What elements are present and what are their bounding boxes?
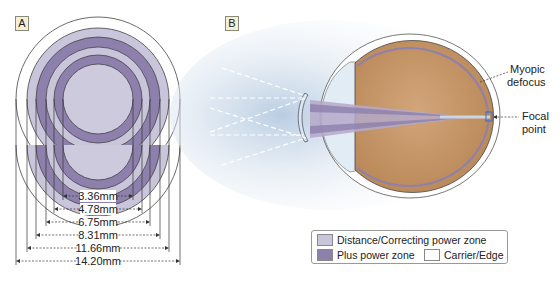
dimension-label: 14.20mm xyxy=(75,255,121,267)
dimension-label: 4.78mm xyxy=(78,203,118,215)
eye-diagram xyxy=(170,20,500,210)
dimension-label: 11.66mm xyxy=(75,242,120,254)
svg-text:defocus: defocus xyxy=(507,76,546,88)
legend: Distance/Correcting power zone Plus powe… xyxy=(311,230,508,264)
legend-item-carrier: Carrier/Edge xyxy=(424,249,504,261)
svg-text:Focal: Focal xyxy=(522,110,549,122)
plus-swatch xyxy=(317,249,333,261)
carrier-swatch xyxy=(424,249,440,261)
distance-swatch xyxy=(317,234,333,246)
legend-item-distance: Distance/Correcting power zone xyxy=(317,234,486,246)
svg-text:point: point xyxy=(522,123,546,135)
ring-distance-center xyxy=(63,64,133,134)
dimension-label: 8.31mm xyxy=(78,229,118,241)
dimension-label: 6.75mm xyxy=(78,216,118,228)
dimension-label: 3.36mm xyxy=(78,190,118,202)
legend-item-plus: Plus power zone xyxy=(317,249,415,261)
annotation-focal-point: Focal point xyxy=(493,110,549,135)
svg-text:Myopic: Myopic xyxy=(510,63,545,75)
